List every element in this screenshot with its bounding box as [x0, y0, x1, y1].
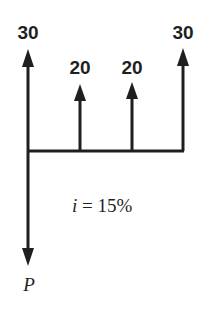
arrow-head-up-icon [22, 49, 34, 67]
cash-flow-diagram: 30 20 20 30 i = 15% P [0, 0, 199, 313]
amount-label-1: 20 [69, 57, 90, 78]
interest-rate-label: i = 15% [72, 195, 132, 216]
amount-label-0: 30 [17, 22, 38, 43]
arrow-head-up-icon [74, 84, 86, 101]
present-value-label: P [22, 274, 35, 295]
arrow-head-up-icon [126, 82, 138, 99]
amount-label-2: 20 [121, 57, 142, 78]
arrow-head-up-icon [177, 48, 189, 66]
interest-value: = 15% [77, 195, 132, 216]
arrow-head-down-icon [22, 248, 34, 266]
amount-label-3: 30 [172, 22, 193, 43]
